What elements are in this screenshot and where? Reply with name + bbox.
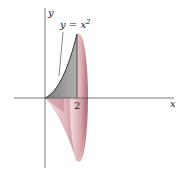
tick-label-2: 2 [74,100,80,111]
y-axis-label: y [47,7,54,18]
curve-label: y = x2 [59,18,91,30]
x-axis-label: x [170,98,176,109]
label-leader-line [59,32,63,76]
shaded-region [45,34,77,98]
solid-of-revolution-diagram: y y = x2 2 x [0,0,190,178]
